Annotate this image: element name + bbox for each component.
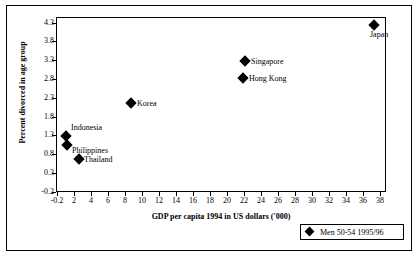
plot-area — [56, 17, 386, 192]
data-point-label: Thailand — [84, 155, 112, 164]
x-axis-title: GDP per capita 1994 in US dollars ('000) — [56, 212, 386, 221]
legend: Men 50-54 1995/96 — [300, 224, 404, 240]
y-tick-mark — [52, 117, 56, 118]
y-axis-title: Percent divorced in age group — [18, 13, 27, 173]
data-point-label: Indonesia — [71, 123, 102, 132]
data-point-label: Singapore — [251, 57, 283, 66]
chart-page: -0.2 0.3 0.8 1.3 1.8 2.3 2.8 3.3 3.8 4.3… — [0, 0, 420, 261]
legend-label: Men 50-54 1995/96 — [320, 228, 384, 237]
y-tick-mark — [52, 154, 56, 155]
y-tick-mark — [52, 98, 56, 99]
diamond-marker — [305, 226, 315, 236]
data-point-label: Hong Kong — [249, 74, 287, 83]
legend-diamond-icon — [306, 228, 315, 237]
x-tick-label: 38 — [368, 197, 392, 205]
y-tick-mark — [52, 192, 56, 193]
y-tick-mark — [52, 60, 56, 61]
y-tick-mark — [52, 173, 56, 174]
y-tick-mark — [52, 41, 56, 42]
data-point-label: Japan — [370, 30, 388, 39]
y-tick-mark — [52, 135, 56, 136]
y-tick-mark — [52, 79, 56, 80]
data-point-label: Korea — [137, 99, 157, 108]
y-axis-tick-labels: -0.2 0.3 0.8 1.3 1.8 2.3 2.8 3.3 3.8 4.3 — [28, 0, 54, 261]
y-tick-mark — [52, 23, 56, 24]
